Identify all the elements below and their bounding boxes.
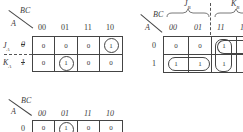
row-value: 0 bbox=[21, 41, 25, 49]
col-var-label: BC bbox=[153, 11, 163, 19]
map-cell: 0 bbox=[78, 37, 99, 54]
row-header: 1 bbox=[152, 60, 156, 68]
map-cell: 0 bbox=[189, 37, 211, 54]
col-header: 1 bbox=[240, 24, 243, 32]
map-cell: 0 bbox=[33, 121, 54, 132]
map-cell: 0 bbox=[164, 37, 188, 54]
col-header: 00 bbox=[38, 110, 46, 118]
grid-line bbox=[163, 72, 243, 73]
map-cell: 0 bbox=[78, 55, 99, 71]
row-var-label: A bbox=[11, 20, 16, 28]
group-pill-row1 bbox=[168, 57, 210, 71]
row-label-ka: KA bbox=[3, 59, 11, 71]
map-cell: 0 bbox=[100, 55, 122, 71]
col-header: 01 bbox=[194, 24, 202, 32]
dashed-divider bbox=[210, 3, 211, 35]
brace-label-jb: JB bbox=[184, 0, 191, 12]
col-header: 10 bbox=[106, 24, 114, 32]
map-cell: 0 bbox=[33, 37, 54, 54]
col-header: 00 bbox=[38, 24, 46, 32]
col-header: 00 bbox=[169, 24, 177, 32]
map-cell: 0 bbox=[100, 121, 122, 132]
grid-line bbox=[122, 36, 123, 72]
row-var-label: A bbox=[145, 24, 150, 32]
map-cell: 0 bbox=[33, 55, 54, 71]
map-cell: 0 bbox=[55, 37, 77, 54]
col-header: 01 bbox=[61, 110, 69, 118]
dashed-separator bbox=[4, 54, 32, 55]
group-circle bbox=[104, 38, 119, 53]
col-header: 11 bbox=[84, 24, 92, 32]
col-header: 11 bbox=[84, 110, 91, 118]
col-header: 11 bbox=[217, 24, 224, 32]
group-circle bbox=[59, 56, 74, 71]
row-var-label: A bbox=[11, 108, 16, 116]
col-header: 01 bbox=[61, 24, 69, 32]
group-pill-row0 bbox=[217, 40, 243, 54]
brace-label-kb: KB bbox=[231, 0, 239, 12]
grid-line bbox=[122, 120, 123, 132]
map-cell: 0 bbox=[78, 121, 99, 132]
col-header: 10 bbox=[106, 110, 114, 118]
group-circle bbox=[59, 122, 74, 132]
row-label-ja: JA bbox=[3, 42, 10, 54]
row-header: 0 bbox=[152, 42, 156, 50]
col-var-label: BC bbox=[21, 97, 31, 105]
row-value: 1 bbox=[21, 59, 25, 67]
row-header: 0 bbox=[21, 125, 25, 132]
col-var-label: BC bbox=[20, 7, 30, 15]
